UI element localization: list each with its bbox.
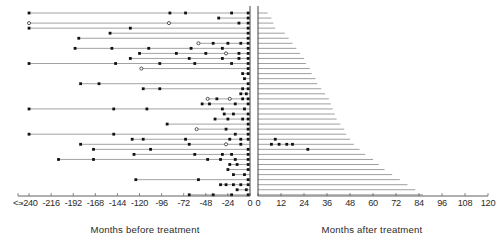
event-marker-open xyxy=(197,42,200,45)
event-marker-filled xyxy=(238,57,241,60)
event-marker-filled xyxy=(129,27,132,30)
event-marker-open xyxy=(206,97,209,100)
event-marker-filled xyxy=(247,168,250,171)
event-marker-filled xyxy=(247,183,250,186)
event-marker-filled xyxy=(79,82,82,85)
event-marker-filled xyxy=(234,133,237,136)
event-marker-filled xyxy=(247,52,250,55)
event-marker-filled xyxy=(247,178,250,181)
event-marker-filled xyxy=(247,133,250,136)
before-tick-label: 0 xyxy=(248,198,253,208)
event-marker-filled xyxy=(227,118,230,121)
event-marker-filled xyxy=(247,97,250,100)
event-marker-open xyxy=(195,128,198,131)
event-marker-filled xyxy=(28,62,31,65)
event-marker-filled xyxy=(28,12,31,15)
right-axis-title: Months after treatment xyxy=(322,224,423,235)
event-marker-filled xyxy=(190,47,193,50)
event-marker-filled xyxy=(208,103,211,106)
after-tick-label: 60 xyxy=(368,198,378,208)
event-marker-filled xyxy=(247,153,250,156)
event-marker-filled xyxy=(247,32,250,35)
event-marker-filled xyxy=(239,143,242,146)
event-marker-filled xyxy=(129,57,132,60)
event-marker-filled xyxy=(247,17,250,20)
event-marker-filled xyxy=(247,42,250,45)
before-tick-label: -240 xyxy=(20,198,37,208)
event-marker-filled xyxy=(247,47,250,50)
event-marker-filled xyxy=(270,143,273,146)
event-marker-filled xyxy=(221,47,224,50)
event-marker-filled xyxy=(228,138,231,141)
after-tick-label: 24 xyxy=(299,198,309,208)
event-marker-filled xyxy=(221,153,224,156)
event-marker-filled xyxy=(243,108,246,111)
event-marker-filled xyxy=(245,188,248,191)
before-tick-label: -168 xyxy=(87,198,104,208)
event-marker-filled xyxy=(247,37,250,40)
event-marker-filled xyxy=(245,92,248,95)
event-marker-filled xyxy=(241,97,244,100)
after-tick-label: 120 xyxy=(481,198,496,208)
event-marker-filled xyxy=(28,133,31,136)
event-marker-filled xyxy=(230,62,233,65)
event-marker-filled xyxy=(133,153,136,156)
event-marker-filled xyxy=(239,92,242,95)
event-marker-filled xyxy=(219,183,222,186)
event-marker-filled xyxy=(225,183,228,186)
event-marker-filled xyxy=(247,113,250,116)
event-marker-filled xyxy=(188,57,191,60)
event-marker-filled xyxy=(223,113,226,116)
chart-canvas: <=-240-216-192-168-144-120-96-72-48-2400… xyxy=(0,0,497,240)
event-marker-filled xyxy=(111,47,114,50)
after-tick-label: 84 xyxy=(414,198,424,208)
event-marker-filled xyxy=(158,87,161,90)
event-marker-filled xyxy=(234,103,237,106)
event-marker-filled xyxy=(247,72,250,75)
after-tick-label: 0 xyxy=(256,198,261,208)
after-tick-label: 72 xyxy=(391,198,401,208)
event-marker-filled xyxy=(197,178,200,181)
event-marker-filled xyxy=(204,52,207,55)
before-tick-label: -72 xyxy=(178,198,191,208)
event-marker-filled xyxy=(285,143,288,146)
event-marker-filled xyxy=(169,12,172,15)
event-marker-filled xyxy=(241,87,244,90)
event-marker-filled xyxy=(247,67,250,70)
event-marker-filled xyxy=(247,163,250,166)
left-panel-rows xyxy=(29,13,250,195)
event-marker-filled xyxy=(193,62,196,65)
right-panel-bars xyxy=(258,13,423,195)
event-marker-filled xyxy=(241,72,244,75)
event-marker-filled xyxy=(232,113,235,116)
after-tick-label: 48 xyxy=(345,198,355,208)
event-marker-filled xyxy=(225,128,228,131)
event-marker-filled xyxy=(131,138,134,141)
event-marker-filled xyxy=(114,62,117,65)
event-marker-filled xyxy=(221,57,224,60)
event-marker-filled xyxy=(236,163,239,166)
event-marker-filled xyxy=(221,108,224,111)
event-marker-filled xyxy=(247,128,250,131)
event-marker-filled xyxy=(74,47,77,50)
event-marker-filled xyxy=(77,37,80,40)
event-marker-filled xyxy=(145,108,148,111)
before-tick-label: -192 xyxy=(65,198,82,208)
event-marker-filled xyxy=(215,97,218,100)
before-tick-label: -24 xyxy=(222,198,235,208)
event-marker-filled xyxy=(247,148,250,151)
event-marker-filled xyxy=(112,133,115,136)
event-marker-filled xyxy=(138,52,141,55)
event-marker-filled xyxy=(247,138,250,141)
before-tick-label: -120 xyxy=(131,198,148,208)
event-marker-filled xyxy=(232,173,235,176)
event-marker-filled xyxy=(193,153,196,156)
event-marker-filled xyxy=(28,27,31,30)
event-marker-filled xyxy=(247,118,250,121)
event-marker-filled xyxy=(247,82,250,85)
after-tick-label: 108 xyxy=(458,198,473,208)
event-marker-filled xyxy=(166,123,169,126)
event-marker-open xyxy=(28,22,31,25)
event-marker-filled xyxy=(217,17,220,20)
event-marker-filled xyxy=(291,143,294,146)
